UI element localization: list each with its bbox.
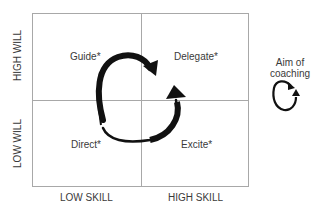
aim-loop-icon (273, 81, 300, 110)
coaching-cycle-arrows (0, 0, 315, 215)
arrow-guide-to-delegate-icon (98, 55, 158, 125)
arrow-excite-to-delegate-icon (103, 85, 186, 142)
